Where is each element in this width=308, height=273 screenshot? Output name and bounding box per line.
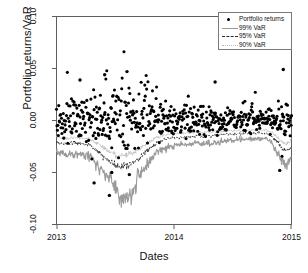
series-portfolio-returns-points xyxy=(55,50,293,197)
legend-marker-solid-line-icon xyxy=(221,24,239,32)
legend-marker-dotted-line-icon xyxy=(221,41,239,49)
legend-marker-dashed-line-icon xyxy=(221,32,239,40)
chart-legend: Portfolio returns 99% VaR 95% VaR 90% Va… xyxy=(218,12,292,50)
legend-label: 95% VaR xyxy=(239,32,266,40)
legend-label: Portfolio returns xyxy=(239,15,284,23)
legend-item-90-var: 90% VaR xyxy=(221,41,291,50)
chart-figure: Portfolio returns/VaR 0.10 0.05 0.00 -0.… xyxy=(0,0,308,273)
legend-item-99-var: 99% VaR xyxy=(221,24,291,33)
legend-label: 90% VaR xyxy=(239,41,266,49)
legend-label: 99% VaR xyxy=(239,24,266,32)
legend-item-95-var: 95% VaR xyxy=(221,32,291,41)
legend-marker-point-icon xyxy=(221,15,239,23)
legend-item-portfolio-returns: Portfolio returns xyxy=(221,15,291,24)
series-95-var-line xyxy=(57,131,292,169)
